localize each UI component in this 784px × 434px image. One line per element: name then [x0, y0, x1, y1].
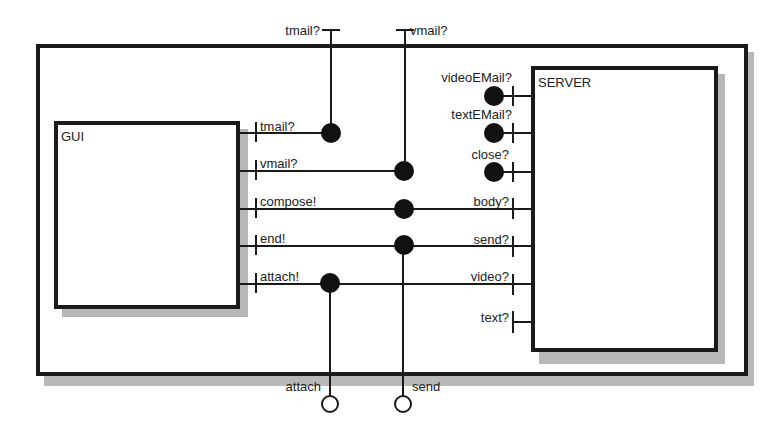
gui-label: GUI	[61, 129, 84, 144]
server-box[interactable]	[533, 68, 716, 350]
junction-dot	[484, 162, 504, 182]
ext-port-send[interactable]	[395, 396, 411, 412]
gui-box[interactable]	[56, 123, 238, 307]
ext-vmail-label: vmail?	[410, 23, 448, 38]
server-port-text-label: text?	[481, 310, 509, 325]
server-port-close-label: close?	[471, 147, 509, 162]
ext-port-attach[interactable]	[322, 396, 338, 412]
ext-tmail-label: tmail?	[285, 23, 320, 38]
component-diagram: GUI SERVER tmail? vmail? tmail? vmail? c…	[0, 0, 784, 434]
server-port-send-label: send?	[474, 232, 509, 247]
junction-dot	[394, 235, 414, 255]
server-port-body-label: body?	[474, 194, 509, 209]
server-port-videoemail-label: videoEMail?	[441, 70, 512, 85]
ext-attach-label: attach	[286, 379, 321, 394]
server-port-textemail-label: textEMail?	[451, 107, 512, 122]
gui-port-vmail-label: vmail?	[260, 156, 298, 171]
junction-dot	[321, 123, 341, 143]
gui-port-tmail-label: tmail?	[260, 119, 295, 134]
junction-dot	[394, 199, 414, 219]
ext-send-label: send	[412, 379, 440, 394]
junction-dot	[484, 86, 504, 106]
junction-dot	[484, 123, 504, 143]
gui-port-attach-label: attach!	[260, 269, 299, 284]
server-label: SERVER	[538, 75, 591, 90]
junction-dot	[394, 161, 414, 181]
server-port-video-label: video?	[471, 269, 509, 284]
gui-port-end-label: end!	[260, 231, 285, 246]
junction-dot	[320, 273, 340, 293]
gui-port-compose-label: compose!	[260, 194, 316, 209]
